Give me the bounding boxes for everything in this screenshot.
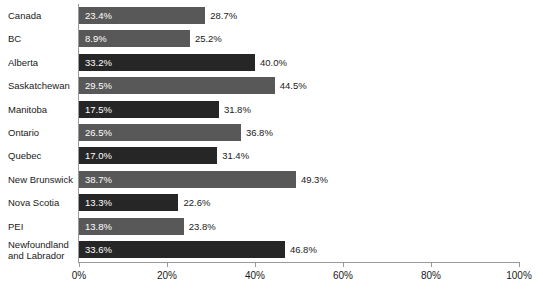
x-axis-tick-mark [519, 262, 520, 267]
bar-inner-value-label: 17.0% [85, 147, 112, 164]
x-axis-line [78, 262, 519, 263]
x-axis-tick-mark [79, 262, 80, 267]
x-axis-tick-label: 20% [157, 270, 177, 281]
bar: 13.8% [79, 218, 184, 235]
category-label: Ontario [8, 121, 74, 144]
bar: 33.2% [79, 54, 255, 71]
bar: 17.0% [79, 147, 217, 164]
category-label: Alberta [8, 51, 74, 74]
bar-row: Alberta33.2%40.0% [0, 51, 543, 74]
bar: 29.5% [79, 77, 275, 94]
bar-outer-value-label: 22.6% [183, 194, 210, 211]
category-label: Quebec [8, 144, 74, 167]
category-label: New Brunswick [8, 168, 74, 191]
bar-inner-value-label: 8.9% [85, 30, 107, 47]
x-axis-tick-label: 100% [506, 270, 532, 281]
bar-inner-value-label: 23.4% [85, 7, 112, 24]
bar-row: Ontario26.5%36.8% [0, 121, 543, 144]
category-label: BC [8, 27, 74, 50]
bar-inner-value-label: 29.5% [85, 77, 112, 94]
horizontal-bar-chart: Canada23.4%28.7%BC8.9%25.2%Alberta33.2%4… [0, 0, 543, 291]
bar-row: Manitoba17.5%31.8% [0, 98, 543, 121]
bar: 8.9% [79, 30, 190, 47]
bar-outer-value-label: 46.8% [290, 241, 317, 258]
bar-outer-value-label: 23.8% [189, 218, 216, 235]
bar-row: Newfoundlandand Labrador33.6%46.8% [0, 238, 543, 261]
bar-outer-value-label: 31.8% [224, 101, 251, 118]
bar-outer-value-label: 36.8% [246, 124, 273, 141]
bar-row: Nova Scotia13.3%22.6% [0, 191, 543, 214]
x-axis-tick-mark [343, 262, 344, 267]
bar: 38.7% [79, 171, 296, 188]
bar-inner-value-label: 17.5% [85, 101, 112, 118]
bar-inner-value-label: 26.5% [85, 124, 112, 141]
bar-inner-value-label: 13.3% [85, 194, 112, 211]
bar-inner-value-label: 13.8% [85, 218, 112, 235]
category-label: Manitoba [8, 98, 74, 121]
x-axis-tick-label: 60% [333, 270, 353, 281]
bar-row: Quebec17.0%31.4% [0, 144, 543, 167]
bar-inner-value-label: 33.6% [85, 241, 112, 258]
x-axis-tick-label: 0% [72, 270, 86, 281]
category-label: Nova Scotia [8, 191, 74, 214]
bar-outer-value-label: 44.5% [280, 77, 307, 94]
x-axis-tick-label: 40% [245, 270, 265, 281]
bar-outer-value-label: 40.0% [260, 54, 287, 71]
x-axis-tick-mark [255, 262, 256, 267]
x-axis-tick-label: 80% [421, 270, 441, 281]
bar: 13.3% [79, 194, 178, 211]
bar-row: Canada23.4%28.7% [0, 4, 543, 27]
x-axis-tick-mark [167, 262, 168, 267]
bar-outer-value-label: 49.3% [301, 171, 328, 188]
bar-row: Saskatchewan29.5%44.5% [0, 74, 543, 97]
category-label: Canada [8, 4, 74, 27]
bar-outer-value-label: 25.2% [195, 30, 222, 47]
bar: 33.6% [79, 241, 285, 258]
x-axis-tick-mark [431, 262, 432, 267]
category-label: Saskatchewan [8, 74, 74, 97]
bar: 26.5% [79, 124, 241, 141]
bar-outer-value-label: 31.4% [222, 147, 249, 164]
bar-row: New Brunswick38.7%49.3% [0, 168, 543, 191]
bar-inner-value-label: 33.2% [85, 54, 112, 71]
bar-row: BC8.9%25.2% [0, 27, 543, 50]
category-label: Newfoundlandand Labrador [8, 238, 74, 261]
category-label: PEI [8, 215, 74, 238]
bar-inner-value-label: 38.7% [85, 171, 112, 188]
bar: 17.5% [79, 101, 219, 118]
bar-outer-value-label: 28.7% [210, 7, 237, 24]
bar-row: PEI13.8%23.8% [0, 215, 543, 238]
bar: 23.4% [79, 7, 205, 24]
